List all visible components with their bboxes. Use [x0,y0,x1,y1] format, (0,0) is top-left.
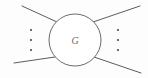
lower-left-leg [14,57,55,63]
right-ellipsis-dot [117,29,119,31]
left-ellipsis-dot [30,39,32,41]
right-ellipsis-dot [117,39,119,41]
upper-left-leg [22,6,57,22]
feynman-blob-diagram: G [0,0,148,78]
left-ellipsis-dot [30,49,32,51]
upper-right-leg [93,6,140,22]
right-ellipsis-dot [117,49,119,51]
left-ellipsis-icon [30,29,32,51]
diagram-canvas: G [0,0,148,78]
right-ellipsis-icon [117,29,119,51]
left-ellipsis-dot [30,29,32,31]
central-blob-label: G [71,35,78,46]
lower-right-leg [94,57,141,73]
